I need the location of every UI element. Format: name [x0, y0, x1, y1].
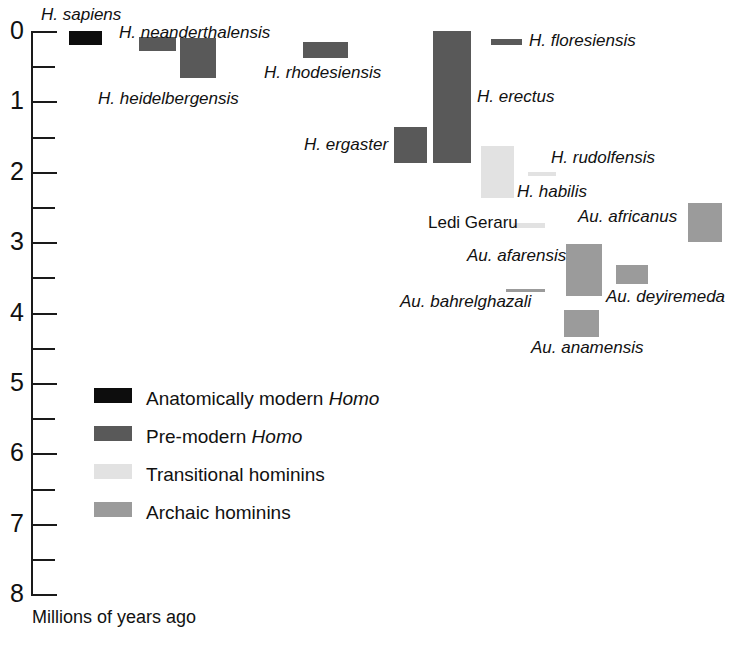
y-axis-tick-minor-3.5 [33, 277, 55, 279]
range-bar-h-erectus [433, 31, 471, 163]
taxon-label-h-floresiensis: H. floresiensis [529, 32, 636, 49]
taxon-label-h-sapiens: H. sapiens [41, 6, 121, 23]
taxon-label-h-neanderthalensis: H. neanderthalensis [119, 24, 270, 41]
y-axis-label-0: 0 [0, 18, 24, 43]
y-axis-tick-minor-4.5 [33, 348, 55, 350]
y-axis-tick-major-4 [31, 313, 57, 315]
range-bar-h-sapiens [69, 31, 102, 45]
legend-label-italic-premodern: Homo [252, 426, 303, 447]
y-axis-tick-minor-2.5 [33, 207, 55, 209]
taxon-label-au-anamensis: Au. anamensis [531, 339, 643, 356]
legend-label-archaic: Archaic hominins [146, 503, 291, 522]
y-axis-tick-minor-5.5 [33, 418, 55, 420]
legend-swatch-modern [94, 388, 132, 403]
range-bar-h-rhodesiensis [303, 42, 348, 58]
y-axis-tick-major-7 [31, 524, 57, 526]
y-axis-tick-major-0 [31, 31, 57, 33]
legend-label-plain-transitional: Transitional hominins [146, 464, 325, 485]
range-bar-h-rudolfensis [528, 172, 556, 176]
legend-label-premodern: Pre-modern Homo [146, 427, 302, 446]
taxon-label-ledi-geraru: Ledi Geraru [428, 214, 518, 231]
range-bar-ledi-geraru [513, 223, 545, 228]
legend-label-plain-modern: Anatomically modern [146, 388, 329, 409]
range-bar-au-deyiremeda [616, 265, 648, 284]
y-axis-tick-major-2 [31, 172, 57, 174]
y-axis-tick-major-5 [31, 383, 57, 385]
taxon-label-au-africanus: Au. africanus [578, 208, 677, 225]
y-axis-tick-major-1 [31, 101, 57, 103]
taxon-label-h-ergaster: H. ergaster [304, 136, 388, 153]
range-bar-au-anamensis [564, 310, 599, 337]
y-axis-tick-major-8 [31, 594, 57, 596]
legend-label-transitional: Transitional hominins [146, 465, 325, 484]
taxon-label-h-heidelbergensis: H. heidelbergensis [98, 90, 239, 107]
y-axis-label-1: 1 [0, 88, 24, 113]
taxon-label-h-habilis: H. habilis [517, 183, 587, 200]
y-axis-tick-minor-1.5 [33, 137, 55, 139]
taxon-label-au-bahrelghazali: Au. bahrelghazali [400, 293, 531, 310]
legend-label-plain-premodern: Pre-modern [146, 426, 252, 447]
y-axis-tick-minor-7.5 [33, 559, 55, 561]
axis-title: Millions of years ago [32, 607, 196, 628]
taxon-label-h-rudolfensis: H. rudolfensis [551, 149, 655, 166]
taxon-label-au-deyiremeda: Au. deyiremeda [606, 288, 725, 305]
y-axis-label-2: 2 [0, 159, 24, 184]
y-axis-tick-major-3 [31, 242, 57, 244]
range-bar-h-habilis [481, 146, 514, 197]
taxon-label-h-erectus: H. erectus [477, 88, 554, 105]
y-axis-label-6: 6 [0, 440, 24, 465]
y-axis-tick-major-6 [31, 453, 57, 455]
y-axis-label-7: 7 [0, 511, 24, 536]
taxon-label-au-afarensis: Au. afarensis [467, 247, 566, 264]
range-bar-h-floresiensis [491, 39, 522, 45]
range-bar-h-ergaster [394, 127, 427, 163]
y-axis-tick-minor-6.5 [33, 489, 55, 491]
legend-label-modern: Anatomically modern Homo [146, 389, 379, 408]
y-axis-tick-minor-0.5 [33, 66, 55, 68]
range-bar-au-afarensis [566, 244, 602, 295]
y-axis-label-8: 8 [0, 581, 24, 606]
legend-label-italic-modern: Homo [329, 388, 380, 409]
taxon-label-h-rhodesiensis: H. rhodesiensis [264, 64, 381, 81]
y-axis-label-3: 3 [0, 229, 24, 254]
y-axis-label-5: 5 [0, 370, 24, 395]
legend-swatch-archaic [94, 502, 132, 517]
legend-swatch-premodern [94, 426, 132, 441]
y-axis-label-4: 4 [0, 300, 24, 325]
legend-swatch-transitional [94, 464, 132, 479]
range-bar-h-heidelbergensis [180, 38, 216, 78]
legend-label-plain-archaic: Archaic hominins [146, 502, 291, 523]
hominin-timeline-chart: 012345678 H. sapiensH. neanderthalensisH… [0, 0, 730, 651]
range-bar-au-africanus [688, 203, 722, 242]
